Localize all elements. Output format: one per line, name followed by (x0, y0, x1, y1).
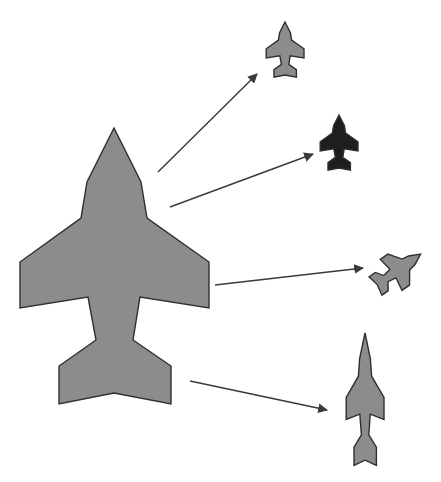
scaled-jet-icon (266, 22, 304, 77)
arrow-to-stretched (190, 381, 327, 410)
arrow-to-recolored (170, 154, 313, 207)
transformation-arrows (158, 74, 363, 410)
stretched-jet-icon (346, 333, 384, 465)
arrow-to-rotated (215, 268, 363, 285)
recolored-jet-icon (320, 115, 358, 170)
original-jet-icon (20, 128, 209, 404)
original-jet-icon (20, 128, 209, 404)
transformation-diagram (0, 0, 441, 482)
variant-jets (266, 22, 431, 465)
arrow-to-scaled (158, 74, 257, 172)
rotated-jet-icon (365, 239, 432, 302)
